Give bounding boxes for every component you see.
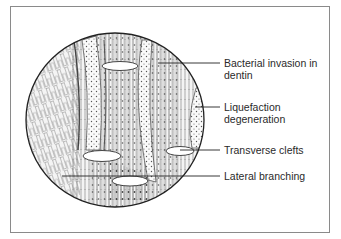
label-lateral-branching: Lateral branching [224,170,305,182]
label-liquefaction: Liquefaction degeneration [224,101,285,125]
label-text: Liquefaction [224,101,285,113]
label-text: Bacterial invasion in [224,57,317,69]
transverse-cleft [166,147,194,156]
label-text: degeneration [224,113,285,125]
label-bacterial-invasion: Bacterial invasion in dentin [224,57,317,81]
label-text: Transverse clefts [224,144,304,156]
transverse-cleft [83,151,121,162]
microscopic-field [20,28,212,212]
transverse-cleft [112,176,148,186]
label-transverse-clefts: Transverse clefts [224,144,304,156]
dentin-section-illustration [0,0,341,239]
label-text: dentin [224,69,317,81]
transverse-cleft [102,62,138,71]
label-text: Lateral branching [224,170,305,182]
